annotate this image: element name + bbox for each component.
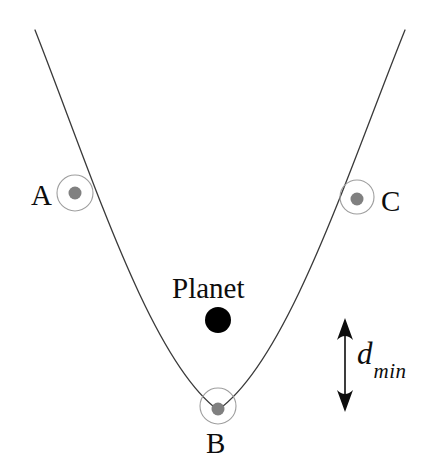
diagram-svg xyxy=(0,0,425,471)
marker-a xyxy=(57,175,93,211)
planet-dot xyxy=(205,307,231,333)
d-min-subscript: min xyxy=(374,359,407,383)
d-min-double-arrow xyxy=(337,318,353,412)
label-d-min: dmin xyxy=(357,338,406,375)
figure-canvas: A B C Planet dmin xyxy=(0,0,425,471)
label-point-a: A xyxy=(31,181,52,210)
marker-b-dot xyxy=(212,403,225,416)
marker-c-dot xyxy=(351,193,364,206)
marker-c xyxy=(340,180,374,214)
marker-b xyxy=(200,388,236,424)
label-point-c: C xyxy=(381,187,400,216)
label-point-b: B xyxy=(206,429,225,458)
trajectory-curve xyxy=(35,30,405,410)
marker-a-dot xyxy=(69,187,82,200)
d-min-symbol: d xyxy=(357,336,373,371)
label-planet: Planet xyxy=(172,274,245,303)
